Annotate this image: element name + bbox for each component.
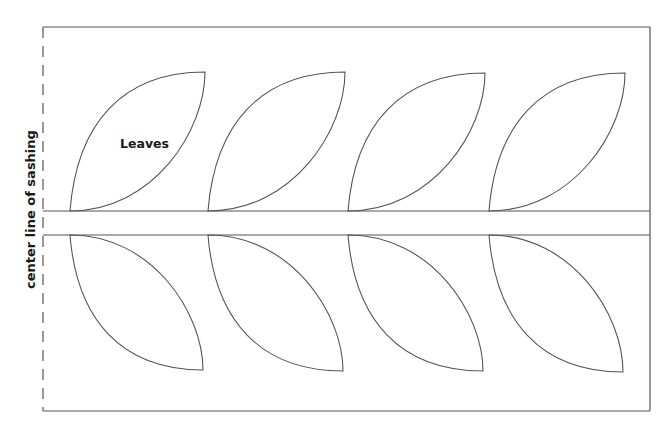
- lower-leaf-3: [348, 235, 483, 371]
- lower-leaf-1: [70, 235, 203, 370]
- center-line-label: center line of sashing: [23, 130, 38, 289]
- leaves-label: Leaves: [120, 136, 169, 151]
- lower-leaf-4: [489, 235, 623, 372]
- stem-band: [43, 211, 650, 235]
- lower-leaves: [70, 235, 623, 372]
- upper-leaf-3: [348, 73, 485, 211]
- quilt-leaf-template-diagram: Leaves center line of sashing: [0, 0, 670, 435]
- upper-leaf-2: [208, 72, 345, 211]
- upper-leaf-4: [489, 73, 625, 211]
- lower-leaf-2: [208, 235, 343, 371]
- template-border: [43, 27, 650, 411]
